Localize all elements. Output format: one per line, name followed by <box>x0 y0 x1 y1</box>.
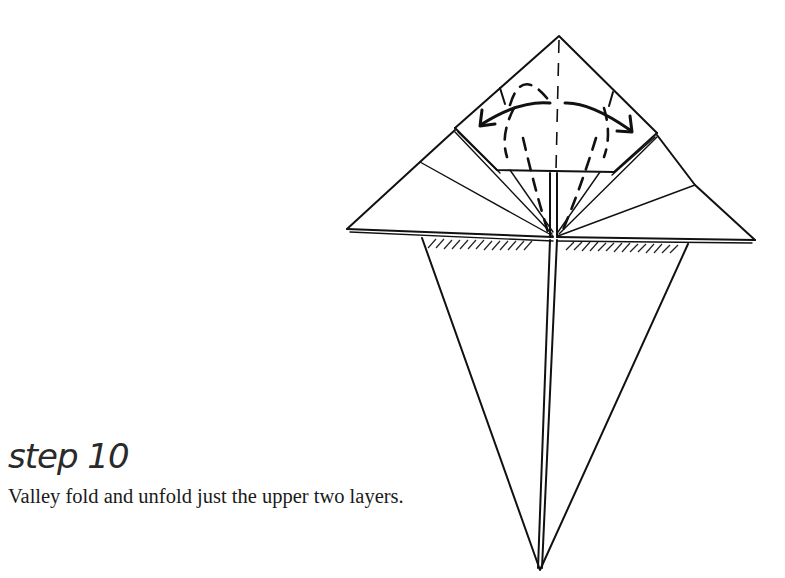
step-title: step 10 <box>8 436 129 476</box>
kite-body <box>422 238 688 570</box>
fold-unfold-arrows <box>480 103 632 132</box>
step-instruction: Valley fold and unfold just the upper tw… <box>8 485 404 508</box>
